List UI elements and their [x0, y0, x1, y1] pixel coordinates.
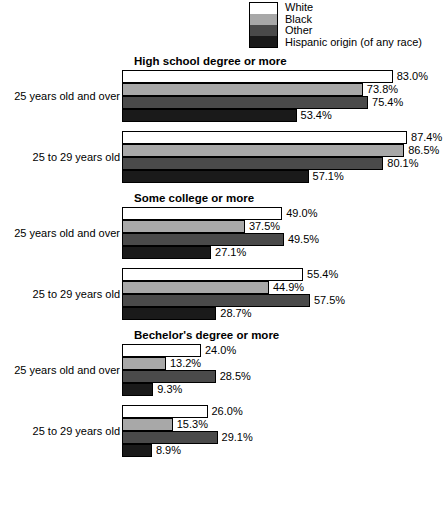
bar-black[interactable] — [123, 144, 404, 157]
group-category-label: 25 to 29 years old — [0, 288, 122, 300]
bar-group: 25 to 29 years old87.4%86.5%80.1%57.1% — [0, 131, 447, 183]
bar-value-label: 44.9% — [273, 281, 304, 294]
chart-panels: High school degree or more25 years old a… — [0, 55, 447, 466]
bar-row: 44.9% — [123, 281, 447, 294]
bar-hisp[interactable] — [123, 383, 153, 396]
panel-title: Some college or more — [134, 192, 447, 204]
bar-row: 28.5% — [123, 370, 447, 383]
bar-value-label: 86.5% — [408, 144, 439, 157]
bar-white[interactable] — [123, 70, 393, 83]
bar-value-label: 26.0% — [212, 405, 243, 418]
bar-track: 49.0%37.5%49.5%27.1% — [122, 207, 447, 259]
bar-row: 75.4% — [123, 96, 447, 109]
bar-black[interactable] — [123, 220, 245, 233]
bar-group: 25 years old and over24.0%13.2%28.5%9.3% — [0, 344, 447, 396]
bar-white[interactable] — [123, 268, 303, 281]
panel-title: High school degree or more — [134, 55, 447, 67]
legend-swatch-black — [250, 14, 277, 25]
panel-title: Bechelor's degree or more — [134, 329, 447, 341]
bar-value-label: 13.2% — [170, 357, 201, 370]
legend-label-other: Other — [285, 25, 422, 37]
bar-black[interactable] — [123, 357, 166, 370]
bar-row: 80.1% — [123, 157, 447, 170]
bar-value-label: 27.1% — [215, 246, 246, 259]
bar-track: 26.0%15.3%29.1%8.9% — [122, 405, 447, 457]
bar-row: 37.5% — [123, 220, 447, 233]
bar-row: 49.5% — [123, 233, 447, 246]
bar-row: 73.8% — [123, 83, 447, 96]
bar-white[interactable] — [123, 405, 208, 418]
bar-value-label: 8.9% — [156, 444, 181, 457]
group-category-label: 25 years old and over — [0, 90, 122, 102]
legend-swatch-white — [250, 3, 277, 14]
legend-swatch-hisp — [250, 36, 277, 47]
bar-group: 25 years old and over83.0%73.8%75.4%53.4… — [0, 70, 447, 122]
bar-black[interactable] — [123, 83, 363, 96]
bar-row: 86.5% — [123, 144, 447, 157]
bar-value-label: 15.3% — [177, 418, 208, 431]
bar-hisp[interactable] — [123, 170, 309, 183]
bar-other[interactable] — [123, 294, 310, 307]
bar-track: 24.0%13.2%28.5%9.3% — [122, 344, 447, 396]
legend-label-white: White — [285, 2, 422, 14]
bar-value-label: 83.0% — [397, 70, 428, 83]
chart-legend: WhiteBlackOtherHispanic origin (of any r… — [249, 2, 422, 48]
bar-value-label: 57.1% — [313, 170, 344, 183]
bar-hisp[interactable] — [123, 307, 216, 320]
bar-row: 15.3% — [123, 418, 447, 431]
bar-row: 87.4% — [123, 131, 447, 144]
bar-value-label: 73.8% — [367, 83, 398, 96]
bar-value-label: 9.3% — [157, 383, 182, 396]
legend-swatch-stack — [249, 2, 278, 48]
bar-value-label: 49.5% — [288, 233, 319, 246]
bar-black[interactable] — [123, 281, 269, 294]
bar-row: 57.1% — [123, 170, 447, 183]
bar-other[interactable] — [123, 431, 218, 444]
chart-panel: High school degree or more25 years old a… — [0, 55, 447, 183]
bar-row: 8.9% — [123, 444, 447, 457]
legend-swatch-other — [250, 25, 277, 36]
bar-value-label: 75.4% — [372, 96, 403, 109]
bar-value-label: 28.5% — [220, 370, 251, 383]
bar-other[interactable] — [123, 370, 216, 383]
chart-panel: Bechelor's degree or more25 years old an… — [0, 329, 447, 457]
group-category-label: 25 to 29 years old — [0, 425, 122, 437]
bar-row: 29.1% — [123, 431, 447, 444]
bar-row: 83.0% — [123, 70, 447, 83]
bar-hisp[interactable] — [123, 109, 297, 122]
bar-other[interactable] — [123, 96, 368, 109]
chart-panel: Some college or more25 years old and ove… — [0, 192, 447, 320]
bar-hisp[interactable] — [123, 246, 211, 259]
bar-row: 13.2% — [123, 357, 447, 370]
bar-value-label: 55.4% — [307, 268, 338, 281]
bar-value-label: 24.0% — [205, 344, 236, 357]
bar-black[interactable] — [123, 418, 173, 431]
group-category-label: 25 years old and over — [0, 227, 122, 239]
bar-row: 57.5% — [123, 294, 447, 307]
legend-label-stack: WhiteBlackOtherHispanic origin (of any r… — [285, 2, 422, 48]
bar-row: 53.4% — [123, 109, 447, 122]
bar-row: 55.4% — [123, 268, 447, 281]
bar-row: 28.7% — [123, 307, 447, 320]
bar-track: 87.4%86.5%80.1%57.1% — [122, 131, 447, 183]
bar-group: 25 years old and over49.0%37.5%49.5%27.1… — [0, 207, 447, 259]
bar-other[interactable] — [123, 157, 383, 170]
group-category-label: 25 years old and over — [0, 364, 122, 376]
bar-track: 83.0%73.8%75.4%53.4% — [122, 70, 447, 122]
bar-hisp[interactable] — [123, 444, 152, 457]
bar-other[interactable] — [123, 233, 284, 246]
bar-value-label: 80.1% — [387, 157, 418, 170]
legend-label-hisp: Hispanic origin (of any race) — [285, 37, 422, 49]
bar-group: 25 to 29 years old26.0%15.3%29.1%8.9% — [0, 405, 447, 457]
bar-row: 9.3% — [123, 383, 447, 396]
bar-row: 49.0% — [123, 207, 447, 220]
bar-white[interactable] — [123, 207, 282, 220]
bar-value-label: 28.7% — [220, 307, 251, 320]
bar-value-label: 53.4% — [301, 109, 332, 122]
group-category-label: 25 to 29 years old — [0, 151, 122, 163]
bar-track: 55.4%44.9%57.5%28.7% — [122, 268, 447, 320]
bar-value-label: 29.1% — [222, 431, 253, 444]
bar-value-label: 87.4% — [411, 131, 442, 144]
bar-white[interactable] — [123, 131, 407, 144]
bar-white[interactable] — [123, 344, 201, 357]
